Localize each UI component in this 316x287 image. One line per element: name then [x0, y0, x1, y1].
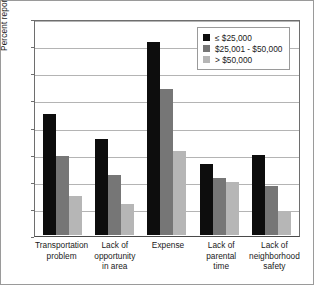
y-axis-tick-mark — [31, 237, 34, 238]
bar — [43, 114, 56, 235]
bar — [147, 42, 160, 235]
bar — [160, 89, 173, 235]
y-axis-tick-mark — [31, 47, 34, 48]
x-axis-category-label-line: Lack of — [88, 240, 141, 251]
bar — [252, 155, 265, 235]
y-axis-tick-mark — [31, 20, 34, 21]
bar — [108, 175, 121, 235]
bar-group — [95, 22, 134, 235]
y-axis-tick-mark — [31, 156, 34, 157]
bar — [213, 178, 226, 235]
x-axis-category-label-line: safety — [248, 261, 301, 272]
bar — [95, 139, 108, 235]
x-axis-category-label: Transportationproblem — [35, 240, 88, 272]
y-axis-title: Percent reporting barriers — [0, 0, 9, 51]
y-axis-tick-mark — [31, 210, 34, 211]
bar-group — [147, 22, 186, 235]
x-axis-category-label: Lack ofneighborhoodsafety — [248, 240, 301, 272]
x-axis-category-label-line: problem — [35, 251, 88, 262]
x-axis-category-label-line: Transportation — [35, 240, 88, 251]
legend-swatch-icon — [203, 45, 210, 52]
x-axis-category-label-line: neighborhood — [248, 251, 301, 262]
bar — [226, 182, 239, 235]
x-axis-category-label: Lack ofparentaltime — [195, 240, 248, 272]
x-axis-category-label-line: parental — [195, 251, 248, 262]
x-axis-category-label-line: time — [195, 261, 248, 272]
bar — [200, 164, 213, 235]
bar — [69, 196, 82, 235]
legend-item: > $50,000 — [203, 54, 282, 65]
x-axis-category-label-line: Lack of — [248, 240, 301, 251]
legend-item: ≤ $25,000 — [203, 32, 282, 43]
chart-legend: ≤ $25,000$25,001 - $50,000> $50,000 — [197, 27, 290, 70]
x-axis-category-label-line: in area — [88, 261, 141, 272]
legend-item-label: ≤ $25,000 — [215, 33, 252, 43]
x-axis-category-label: Expense — [141, 240, 194, 272]
y-axis-tick-mark — [31, 183, 34, 184]
x-axis-category-labels: TransportationproblemLack ofopportunityi… — [35, 240, 301, 272]
bar-group — [43, 22, 82, 235]
chart-figure: 01020304050607080 Percent reporting barr… — [0, 0, 314, 285]
legend-item-label: $25,001 - $50,000 — [215, 44, 282, 54]
y-axis-tick-mark — [31, 101, 34, 102]
bar — [173, 151, 186, 235]
x-axis-category-label-line: Lack of — [195, 240, 248, 251]
legend-item: $25,001 - $50,000 — [203, 43, 282, 54]
legend-swatch-icon — [203, 34, 210, 41]
bar — [265, 186, 278, 235]
legend-item-label: > $50,000 — [215, 55, 252, 65]
bar — [278, 211, 291, 235]
bar — [56, 156, 69, 235]
y-axis-tick-mark — [31, 74, 34, 75]
bar — [121, 204, 134, 235]
legend-swatch-icon — [203, 56, 210, 63]
y-axis-tick-mark — [31, 129, 34, 130]
x-axis-category-label: Lack ofopportunityin area — [88, 240, 141, 272]
x-axis-category-label-line: opportunity — [88, 251, 141, 262]
x-axis-category-label-line: Expense — [141, 240, 194, 251]
